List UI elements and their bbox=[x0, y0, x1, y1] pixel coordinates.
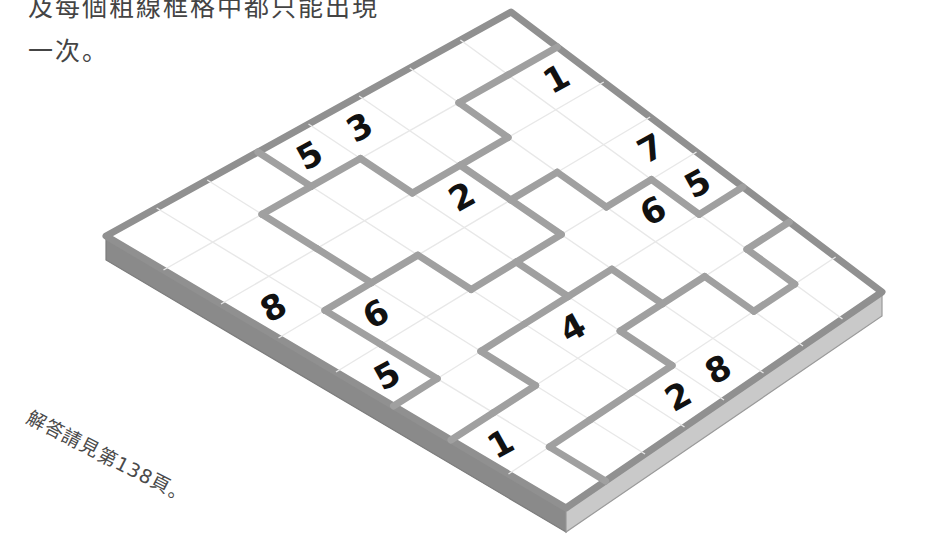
puzzle-page: 及每個粗線框格中都只能出現 一次。 解答請見第138頁。 53182675654… bbox=[0, 0, 927, 550]
isometric-sudoku-board[interactable]: 53182675654182 bbox=[0, 0, 927, 550]
